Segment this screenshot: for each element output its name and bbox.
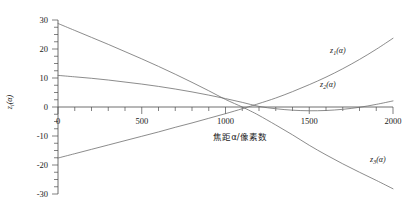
x-tick-label: 1500 <box>301 116 318 126</box>
x-tick-label: 1000 <box>217 116 234 126</box>
series-label-z1: z1(α) <box>329 46 346 56</box>
series-label-z2: z2(α) <box>319 80 336 90</box>
y-tick-label: 20 <box>40 44 49 54</box>
y-axis-title-text: zi(α) <box>5 95 15 111</box>
y-tick-label: -10 <box>37 131 48 141</box>
chart-figure: 3020100-10-20-30 0500100015002000 z1(α)z… <box>0 0 405 215</box>
x-tick-label: 0 <box>56 116 60 126</box>
y-tick-label: 0 <box>44 102 48 112</box>
y-tick-label: 30 <box>40 15 49 25</box>
y-tick-label: 10 <box>40 73 49 83</box>
x-axis-title-text: 焦距α/像素数 <box>213 132 266 142</box>
y-tick-label: -30 <box>37 189 48 199</box>
y-axis-title: zi(α) <box>5 95 15 111</box>
x-tick-label: 500 <box>135 116 148 126</box>
series-label-z3: z3(α) <box>369 155 386 165</box>
x-tick-label: 2000 <box>385 116 402 126</box>
chart-svg: 3020100-10-20-30 0500100015002000 z1(α)z… <box>0 0 405 215</box>
chart-background <box>0 0 405 215</box>
y-tick-label: -20 <box>37 160 48 170</box>
